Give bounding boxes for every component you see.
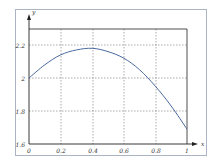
x-tick-label: 0.6	[119, 147, 129, 154]
y-tick-label: 1.6	[15, 141, 25, 148]
x-axis-arrow-icon	[192, 142, 198, 146]
y-tick-label: 1.8	[15, 108, 25, 115]
grid	[29, 29, 187, 144]
y-axis-label: y	[31, 8, 36, 16]
x-tick-label: 0.4	[88, 147, 98, 154]
data-line	[29, 48, 187, 129]
line-chart: y x 1.6 1.8 2 2.2 0 0.2 0.4 0.6 0.8 1	[0, 0, 222, 168]
x-tick-label: 0.2	[56, 147, 66, 154]
x-tick-label: 0.8	[151, 147, 161, 154]
y-axis-arrow-icon	[27, 14, 31, 20]
x-tick-label: 0	[27, 147, 31, 154]
x-axis-label: x	[201, 140, 205, 147]
x-tick-label: 1	[185, 147, 189, 154]
y-tick-label: 2.2	[14, 42, 25, 49]
y-tick-label: 2	[20, 75, 25, 82]
